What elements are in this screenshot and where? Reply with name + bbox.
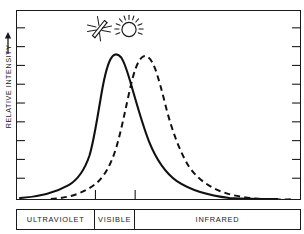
plot-area bbox=[16, 10, 301, 200]
x-axis-ticks bbox=[95, 190, 135, 199]
up-arrow-icon bbox=[3, 32, 13, 54]
spectral-curves-svg bbox=[17, 11, 300, 199]
band-visible-label: VISIBLE bbox=[98, 215, 131, 224]
y-axis-label-group: RELATIVE INTENSITY bbox=[0, 10, 16, 200]
spectral-distribution-figure: RELATIVE INTENSITY bbox=[0, 0, 304, 234]
curve-incandescent-lamp bbox=[20, 54, 277, 199]
band-ultraviolet: ULTRAVIOLET bbox=[17, 210, 95, 229]
incandescent-lamp-icon bbox=[84, 14, 114, 44]
light-source-icons bbox=[84, 11, 146, 47]
right-axis-ticks bbox=[292, 28, 300, 178]
y-axis-ticks bbox=[17, 28, 25, 178]
sun-icon bbox=[113, 13, 145, 45]
spectral-band-bar: ULTRAVIOLET VISIBLE INFRARED bbox=[16, 209, 301, 230]
band-visible: VISIBLE bbox=[95, 210, 135, 229]
band-infrared-label: INFRARED bbox=[196, 215, 240, 224]
band-infrared: INFRARED bbox=[135, 210, 300, 229]
band-ultraviolet-label: ULTRAVIOLET bbox=[27, 215, 85, 224]
